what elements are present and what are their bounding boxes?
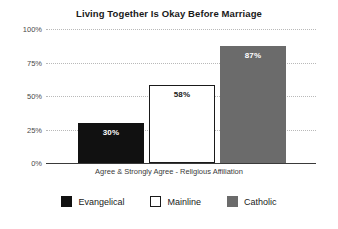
- axis-baseline: [46, 163, 316, 164]
- bar-evangelical[interactable]: 30%: [78, 123, 144, 163]
- y-axis-tick-100: 100%: [0, 25, 42, 34]
- chart-legend: Evangelical Mainline Catholic: [0, 196, 338, 207]
- legend-swatch-evangelical: [61, 196, 72, 207]
- chart-container: Living Together Is Okay Before Marriage …: [0, 0, 338, 229]
- legend-item-mainline[interactable]: Mainline: [150, 196, 201, 207]
- bar-series: 30% 58% 87%: [46, 29, 316, 163]
- y-axis-tick-75: 75%: [0, 58, 42, 67]
- legend-label-evangelical: Evangelical: [78, 197, 124, 207]
- chart-title: Living Together Is Okay Before Marriage: [0, 8, 338, 19]
- y-axis-tick-25: 25%: [0, 125, 42, 134]
- legend-label-mainline: Mainline: [167, 197, 201, 207]
- bar-value-label-evangelical: 30%: [79, 128, 143, 137]
- legend-label-catholic: Catholic: [244, 197, 277, 207]
- bar-value-label-catholic: 87%: [221, 51, 285, 60]
- bar-value-label-mainline: 58%: [150, 90, 214, 99]
- bar-catholic[interactable]: 87%: [220, 46, 286, 163]
- y-axis-tick-50: 50%: [0, 92, 42, 101]
- legend-swatch-mainline: [150, 196, 161, 207]
- x-axis-label: Agree & Strongly Agree - Religious Affil…: [0, 167, 338, 176]
- legend-item-catholic[interactable]: Catholic: [227, 196, 277, 207]
- plot-area: 30% 58% 87%: [46, 29, 316, 163]
- legend-item-evangelical[interactable]: Evangelical: [61, 196, 124, 207]
- bar-mainline[interactable]: 58%: [149, 85, 215, 163]
- legend-swatch-catholic: [227, 196, 238, 207]
